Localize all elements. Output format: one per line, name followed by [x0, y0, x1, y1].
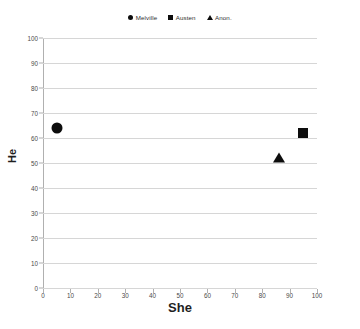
gridline	[43, 188, 317, 189]
y-tick-label: 0	[8, 285, 38, 292]
x-tick-mark	[43, 289, 44, 293]
x-tick-mark	[125, 289, 126, 293]
gridline	[43, 238, 317, 239]
legend-label-anon: Anon.	[215, 14, 232, 21]
y-tick-label: 70	[8, 110, 38, 117]
y-tick-label: 60	[8, 135, 38, 142]
y-tick-mark	[39, 163, 43, 164]
x-axis-title: She	[43, 300, 317, 315]
gridline	[43, 88, 317, 89]
y-tick-mark	[39, 63, 43, 64]
x-tick-mark	[70, 289, 71, 293]
scatter-chart: Melville Austen Anon. 010203040506070809…	[0, 0, 360, 329]
square-marker-icon	[168, 15, 173, 20]
y-tick-label: 40	[8, 185, 38, 192]
gridline	[43, 63, 317, 64]
x-tick-mark	[262, 289, 263, 293]
y-tick-label: 30	[8, 210, 38, 217]
y-tick-mark	[39, 113, 43, 114]
y-tick-label: 80	[8, 85, 38, 92]
legend-label-austen: Austen	[176, 14, 196, 21]
x-tick-label: 40	[138, 292, 168, 299]
x-tick-mark	[153, 289, 154, 293]
data-point-melville	[51, 123, 62, 134]
gridline	[43, 113, 317, 114]
x-tick-mark	[98, 289, 99, 293]
x-tick-label: 20	[83, 292, 113, 299]
circle-marker-icon	[128, 15, 133, 20]
gridline	[43, 213, 317, 214]
x-tick-label: 70	[220, 292, 250, 299]
x-tick-mark	[235, 289, 236, 293]
gridline	[43, 38, 317, 39]
legend-item-anon: Anon.	[207, 14, 232, 21]
x-tick-mark	[207, 289, 208, 293]
x-tick-label: 30	[110, 292, 140, 299]
x-tick-label: 10	[55, 292, 85, 299]
y-tick-label: 10	[8, 260, 38, 267]
x-tick-label: 90	[275, 292, 305, 299]
legend-item-austen: Austen	[168, 14, 195, 21]
gridline	[43, 263, 317, 264]
y-tick-label: 90	[8, 60, 38, 67]
x-tick-label: 0	[28, 292, 58, 299]
data-point-anon	[273, 153, 285, 163]
x-tick-label: 100	[302, 292, 332, 299]
x-tick-label: 50	[165, 292, 195, 299]
y-tick-mark	[39, 213, 43, 214]
gridline	[43, 138, 317, 139]
y-tick-mark	[39, 38, 43, 39]
y-tick-mark	[39, 188, 43, 189]
legend-item-melville: Melville	[128, 14, 157, 21]
y-axis-title: He	[6, 149, 18, 163]
y-tick-mark	[39, 138, 43, 139]
plot-area	[43, 38, 317, 288]
x-tick-mark	[180, 289, 181, 293]
y-tick-label: 100	[8, 35, 38, 42]
x-tick-label: 60	[192, 292, 222, 299]
x-tick-label: 80	[247, 292, 277, 299]
y-tick-mark	[39, 88, 43, 89]
chart-legend: Melville Austen Anon.	[0, 14, 360, 21]
data-point-austen	[298, 128, 308, 138]
x-tick-mark	[290, 289, 291, 293]
y-tick-mark	[39, 263, 43, 264]
x-tick-mark	[317, 289, 318, 293]
legend-label-melville: Melville	[136, 14, 157, 21]
y-tick-label: 20	[8, 235, 38, 242]
gridline	[43, 163, 317, 164]
triangle-marker-icon	[207, 15, 213, 20]
y-tick-mark	[39, 238, 43, 239]
